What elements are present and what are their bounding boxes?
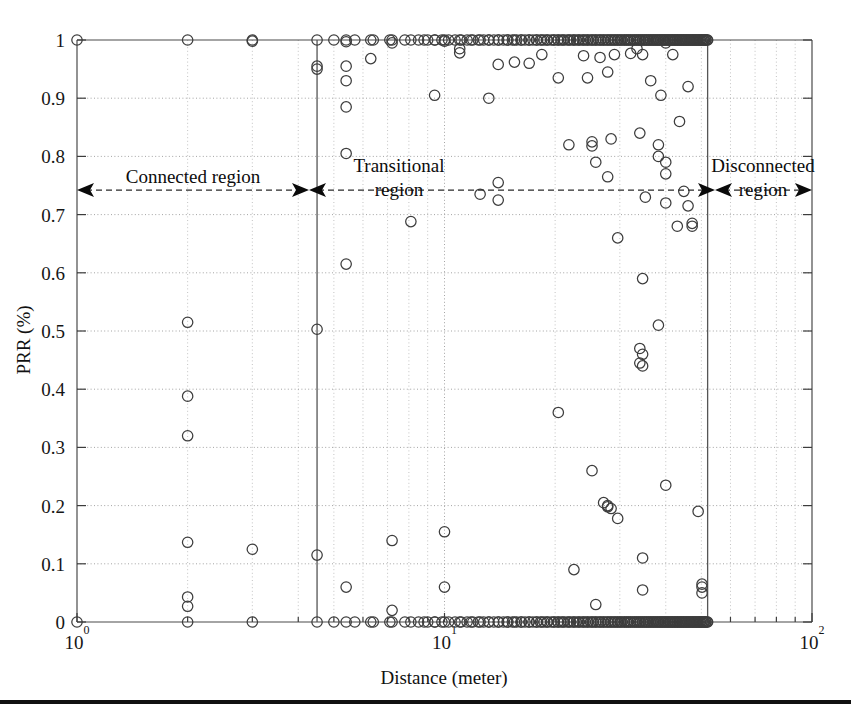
- transitional-region-label-line1: Transitional: [353, 155, 444, 176]
- y-tick-label: 0.9: [41, 88, 65, 109]
- y-tick-label: 0: [56, 612, 66, 633]
- connected-region-label: Connected region: [126, 166, 261, 187]
- page-separator-rule: [0, 700, 851, 704]
- figure-background: [0, 0, 851, 728]
- prr-distance-scatter-chart: 00.10.20.30.40.50.60.70.80.91 100101102 …: [0, 0, 851, 728]
- y-axis-title: PRR (%): [13, 305, 35, 374]
- y-tick-label: 0.1: [41, 554, 65, 575]
- y-tick-label: 0.5: [41, 321, 65, 342]
- y-tick-label: 1: [56, 30, 66, 51]
- disconnected-region-label-line1: Disconnected: [711, 155, 815, 176]
- y-tick-label: 0.2: [41, 496, 65, 517]
- y-tick-label: 0.7: [41, 205, 65, 226]
- y-tick-label: 0.3: [41, 437, 65, 458]
- disconnected-region-label-line2: region: [739, 179, 788, 200]
- y-tick-label: 0.6: [41, 263, 65, 284]
- x-axis-title: Distance (meter): [380, 667, 507, 689]
- y-tick-label: 0.8: [41, 146, 65, 167]
- y-tick-label: 0.4: [41, 379, 65, 400]
- transitional-region-label-line2: region: [375, 179, 424, 200]
- figure-container: 00.10.20.30.40.50.60.70.80.91 100101102 …: [0, 0, 851, 728]
